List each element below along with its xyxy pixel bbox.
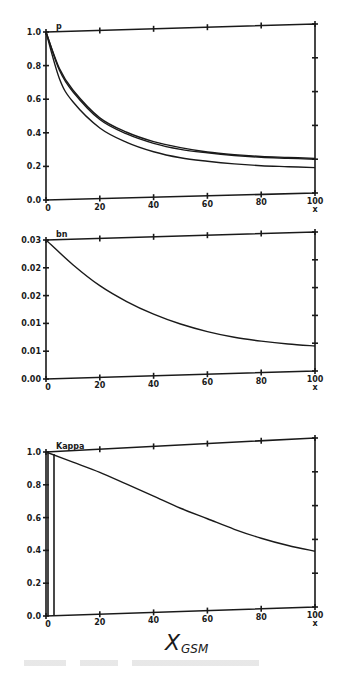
x-tick-label: 0 — [45, 620, 51, 629]
series-line-kappa — [46, 452, 315, 551]
cropped-caption-text — [24, 660, 259, 666]
x-tick-label: 40 — [148, 616, 160, 625]
y-tick-label: 0.2 — [27, 162, 41, 171]
x-tick-label: 0 — [45, 383, 51, 392]
y-tick-label: 0.4 — [27, 546, 42, 555]
x-tick-label: 20 — [94, 618, 106, 627]
x-axis-annotation-subscript: GSM — [181, 642, 209, 656]
y-tick-label: 0.8 — [27, 62, 42, 71]
y-tick-label: 0.01 — [21, 347, 41, 356]
x-tick-label: 40 — [148, 380, 160, 389]
x-tick-label: 80 — [256, 377, 268, 386]
x-tick-label: 20 — [94, 381, 106, 390]
panel-title: Kappa — [56, 442, 84, 451]
chart-panel-kappa: 020406080100x0.00.20.40.60.81.0Kappa — [27, 435, 324, 629]
chart-panel-p: 020406080100x0.00.20.40.60.81.0p — [27, 21, 324, 214]
x-axis-label: x — [312, 205, 318, 214]
series-line-bn — [46, 240, 315, 346]
x-axis-label: x — [312, 383, 318, 392]
y-tick-label: 0.00 — [21, 375, 41, 384]
axes-frame — [46, 24, 315, 200]
y-tick-label: 1.0 — [27, 448, 42, 457]
axes-frame — [46, 232, 315, 379]
series-line-curve-1 — [46, 32, 315, 158]
x-tick-label: 60 — [202, 200, 214, 209]
y-tick-label: 0.8 — [27, 481, 42, 490]
x-tick-label: 80 — [256, 613, 268, 622]
y-tick-label: 0.02 — [21, 264, 41, 273]
series-line-curve-2 — [46, 32, 315, 159]
x-tick-label: 60 — [202, 615, 214, 624]
y-tick-label: 0.0 — [27, 612, 42, 621]
axes-frame — [46, 438, 315, 616]
x-tick-label: 20 — [94, 203, 106, 212]
x-tick-label: 60 — [202, 378, 214, 387]
x-tick-label: 40 — [148, 201, 160, 210]
panel-title: bn — [56, 230, 68, 239]
y-tick-label: 0.6 — [27, 95, 42, 104]
x-axis-annotation: X — [164, 630, 181, 655]
y-tick-label: 0.4 — [27, 129, 42, 138]
x-tick-label: 0 — [45, 204, 51, 213]
panel-title: p — [56, 22, 62, 31]
y-tick-label: 0.6 — [27, 514, 42, 523]
chart-panel-bn: 020406080100x0.000.010.010.020.020.03bn — [21, 229, 324, 392]
y-tick-label: 0.03 — [21, 236, 41, 245]
y-tick-label: 0.0 — [27, 196, 42, 205]
x-tick-label: 80 — [256, 198, 268, 207]
y-tick-label: 0.02 — [21, 292, 41, 301]
x-axis-label: x — [312, 619, 318, 628]
y-tick-label: 0.01 — [21, 319, 41, 328]
figure: 020406080100x0.00.20.40.60.81.0p02040608… — [0, 0, 341, 674]
y-tick-label: 0.2 — [27, 579, 41, 588]
y-tick-label: 1.0 — [27, 28, 42, 37]
